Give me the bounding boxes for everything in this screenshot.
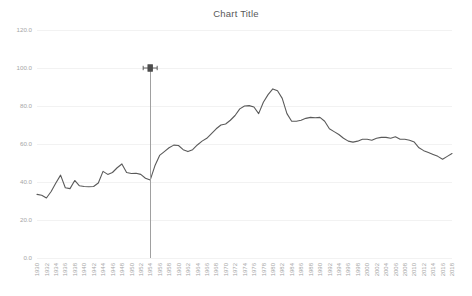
x-axis-tick-label: 1954 bbox=[147, 262, 153, 276]
x-axis-tick-label: 1992 bbox=[327, 262, 333, 276]
x-axis-tick-label: 2006 bbox=[393, 262, 399, 276]
x-axis-tick-label: 1970 bbox=[223, 262, 229, 276]
x-axis-tick-label: 2018 bbox=[449, 262, 455, 276]
x-axis-tick-label: 2004 bbox=[383, 262, 389, 276]
y-axis-tick-label: 40.0 bbox=[20, 178, 33, 185]
x-axis-tick-label: 1938 bbox=[72, 262, 78, 276]
x-axis-tick-label: 1946 bbox=[110, 262, 116, 276]
x-axis-tick-label: 1978 bbox=[261, 262, 267, 276]
y-axis-tick-label: 20.0 bbox=[20, 216, 33, 223]
x-axis-tick-label: 1936 bbox=[62, 262, 68, 276]
x-axis-tick-label: 1942 bbox=[91, 262, 97, 276]
x-axis-tick-label: 1964 bbox=[195, 262, 201, 276]
x-axis-tick-label: 1944 bbox=[100, 262, 106, 276]
x-axis-tick-label: 1950 bbox=[129, 262, 135, 276]
x-axis-tick-label: 1986 bbox=[298, 262, 304, 276]
vertical-cursor-line[interactable] bbox=[143, 65, 157, 258]
x-axis-tick-label: 2016 bbox=[440, 262, 446, 276]
y-axis-tick-label: 60.0 bbox=[20, 140, 33, 147]
x-axis-tick-label: 1976 bbox=[251, 262, 257, 276]
horizontal-resize-cursor-icon[interactable] bbox=[143, 65, 157, 71]
y-axis-tick-labels: 0.020.040.060.080.0100.0120.0 bbox=[17, 26, 33, 261]
x-axis-tick-label: 1958 bbox=[166, 262, 172, 276]
x-axis-tick-label: 1982 bbox=[279, 262, 285, 276]
chart-plot-area[interactable]: 0.020.040.060.080.0100.0120.0 1930193219… bbox=[0, 0, 472, 296]
x-axis-tick-label: 1952 bbox=[138, 262, 144, 276]
x-axis-tick-label: 2014 bbox=[430, 262, 436, 276]
x-axis-tick-label: 1972 bbox=[232, 262, 238, 276]
x-axis-tick-labels: 1930193219341936193819401942194419461948… bbox=[34, 262, 455, 276]
x-axis-tick-label: 1948 bbox=[119, 262, 125, 276]
gridlines-group bbox=[37, 30, 452, 258]
x-axis-tick-label: 1960 bbox=[176, 262, 182, 276]
x-axis-tick-label: 1966 bbox=[204, 262, 210, 276]
x-axis-tick-label: 2000 bbox=[364, 262, 370, 276]
x-axis-tick-label: 1968 bbox=[213, 262, 219, 276]
y-axis-tick-label: 120.0 bbox=[17, 26, 33, 33]
x-axis-tick-label: 1956 bbox=[157, 262, 163, 276]
x-axis-tick-label: 1930 bbox=[34, 262, 40, 276]
x-axis-tick-label: 2008 bbox=[402, 262, 408, 276]
x-axis-tick-label: 2002 bbox=[374, 262, 380, 276]
x-axis-tick-label: 1932 bbox=[44, 262, 50, 276]
x-axis-tick-label: 1988 bbox=[308, 262, 314, 276]
x-axis-tick-label: 1984 bbox=[289, 262, 295, 276]
x-axis-tick-label: 1990 bbox=[317, 262, 323, 276]
y-axis-tick-label: 80.0 bbox=[20, 102, 33, 109]
y-axis-tick-label: 100.0 bbox=[17, 64, 33, 71]
x-axis-tick-label: 1974 bbox=[242, 262, 248, 276]
x-axis-tick-label: 1934 bbox=[53, 262, 59, 276]
x-axis-tick-label: 1940 bbox=[81, 262, 87, 276]
x-axis-tick-label: 2010 bbox=[411, 262, 417, 276]
x-axis-tick-label: 2012 bbox=[421, 262, 427, 276]
x-axis-tick-label: 1994 bbox=[336, 262, 342, 276]
chart-container: Chart Title 0.020.040.060.080.0100.0120.… bbox=[0, 0, 472, 296]
x-axis-tick-label: 1998 bbox=[355, 262, 361, 276]
x-axis-tick-label: 1980 bbox=[270, 262, 276, 276]
y-axis-tick-label: 0.0 bbox=[23, 254, 32, 261]
x-axis-tick-label: 1996 bbox=[345, 262, 351, 276]
x-axis-tick-label: 1962 bbox=[185, 262, 191, 276]
